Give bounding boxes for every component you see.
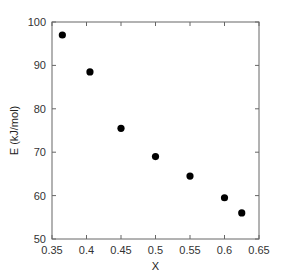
y-axis-label: E (kJ/mol) — [8, 106, 20, 156]
x-tick-label: 0.55 — [179, 244, 200, 256]
x-tick-label: 0.6 — [217, 244, 232, 256]
y-tick-label: 50 — [34, 233, 46, 245]
data-point — [117, 125, 124, 132]
data-point — [152, 153, 159, 160]
x-tick-label: 0.5 — [148, 244, 163, 256]
y-tick-label: 100 — [28, 16, 46, 28]
x-axis-label: X — [152, 260, 160, 272]
y-tick-label: 80 — [34, 103, 46, 115]
data-point — [238, 209, 245, 216]
data-point — [86, 68, 93, 75]
data-point — [186, 172, 193, 179]
x-axis-ticks: 0.350.40.450.50.550.60.65 — [41, 22, 269, 256]
y-axis-ticks: 5060708090100 — [28, 16, 259, 245]
y-tick-label: 90 — [34, 59, 46, 71]
y-tick-label: 60 — [34, 190, 46, 202]
data-point — [59, 31, 66, 38]
data-point — [221, 194, 228, 201]
x-tick-label: 0.65 — [248, 244, 269, 256]
plot-frame — [52, 22, 259, 239]
y-tick-label: 70 — [34, 146, 46, 158]
x-tick-label: 0.4 — [79, 244, 94, 256]
x-tick-label: 0.35 — [41, 244, 62, 256]
x-tick-label: 0.45 — [110, 244, 131, 256]
scatter-chart: 0.350.40.450.50.550.60.65 5060708090100 … — [0, 0, 284, 280]
data-points — [59, 31, 246, 216]
